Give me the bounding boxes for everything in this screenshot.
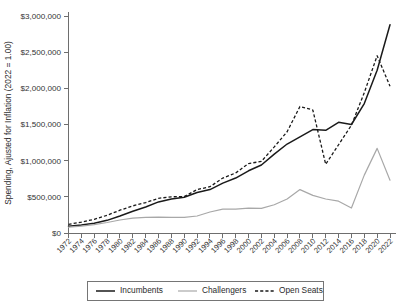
x-axis-ticks: 1972197419761978198019821984198619881990… [55,234,395,255]
y-tick-label: $3,000,000 [20,12,61,21]
y-tick-label: $2,000,000 [20,84,61,93]
y-axis-title-label: Spending, Ajusted for Inflation (2022 = … [3,41,13,205]
y-tick-label: $1,000,000 [20,157,61,166]
series-line-challengers [69,148,391,227]
legend-label-open-seats: Open Seats [279,285,323,295]
y-axis-ticks: $0$500,000$1,000,000$1,500,000$2,000,000… [20,12,68,238]
legend-label-challengers: Challengers [202,285,246,295]
chart-container: Spending, Ajusted for Inflation (2022 = … [0,0,412,307]
y-axis-title: Spending, Ajusted for Inflation (2022 = … [3,41,13,205]
legend-label-incumbents: Incumbents [120,285,163,295]
y-tick-label: $500,000 [27,193,61,202]
line-chart: Spending, Ajusted for Inflation (2022 = … [0,0,412,307]
series-line-incumbents [69,25,391,226]
y-tick-label: $0 [52,229,62,238]
x-tick-label: 2022 [376,237,394,255]
chart-legend: IncumbentsChallengersOpen Seats [88,282,324,301]
y-tick-label: $2,500,000 [20,48,61,57]
y-tick-label: $1,500,000 [20,120,61,129]
series-lines [69,25,391,228]
series-line-open-seats [69,56,391,225]
